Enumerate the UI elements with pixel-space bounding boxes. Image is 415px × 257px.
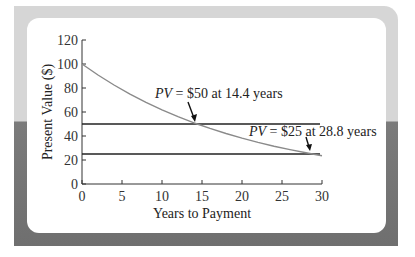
y-tick-label: 0 xyxy=(71,177,78,192)
x-tick-label: 25 xyxy=(275,189,289,204)
x-tick-label: 30 xyxy=(315,189,329,204)
y-tick-label: 40 xyxy=(64,129,78,144)
y-tick-label: 60 xyxy=(64,105,78,120)
x-tick-label: 5 xyxy=(119,189,126,204)
arrow-icon xyxy=(306,137,312,151)
annotation-pv25: PV = $25 at 28.8 years xyxy=(248,124,377,139)
y-tick-label: 20 xyxy=(64,153,78,168)
y-tick-label: 120 xyxy=(57,33,78,48)
x-tick-label: 10 xyxy=(155,189,169,204)
chart-svg: 020406080100120 051015202530 PV = $50 at… xyxy=(0,0,415,257)
annotation-pv50: PV = $50 at 14.4 years xyxy=(154,86,283,101)
y-tick-label: 100 xyxy=(57,57,78,72)
x-tick-label: 20 xyxy=(235,189,249,204)
pv-curve xyxy=(82,64,322,156)
y-tick-label: 80 xyxy=(64,81,78,96)
y-axis-title: Present Value ($) xyxy=(40,64,56,160)
x-tick-label: 15 xyxy=(195,189,209,204)
x-tick-label: 0 xyxy=(79,189,86,204)
arrow-icon xyxy=(188,102,197,122)
x-axis-title: Years to Payment xyxy=(153,206,251,221)
